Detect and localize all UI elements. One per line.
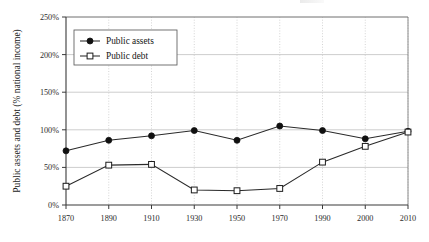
data-point-marker [362, 143, 368, 149]
data-point-marker [320, 128, 326, 134]
data-point-marker [320, 159, 326, 165]
y-tick-label: 50% [44, 163, 59, 172]
data-point-marker [106, 162, 112, 168]
data-point-marker [63, 183, 69, 189]
legend-label: Public assets [106, 36, 154, 46]
x-tick-label: 1930 [186, 214, 202, 223]
data-point-marker [106, 137, 112, 143]
y-tick-label: 200% [40, 51, 59, 60]
x-tick-label: 1950 [229, 214, 245, 223]
y-tick-label: 0% [48, 201, 59, 210]
data-point-marker [277, 186, 283, 192]
data-point-marker [191, 128, 197, 134]
data-point-marker [191, 187, 197, 193]
y-axis-title: Public assets and debt (% national incom… [12, 29, 23, 193]
x-tick-label: 1870 [58, 214, 74, 223]
data-point-marker [405, 129, 411, 135]
y-tick-label: 250% [40, 13, 59, 22]
data-point-marker [63, 148, 69, 154]
data-point-marker [234, 137, 240, 143]
data-point-marker [277, 123, 283, 129]
x-tick-label: 1910 [143, 214, 159, 223]
data-point-marker [149, 133, 155, 139]
x-tick-label: 2000 [357, 214, 373, 223]
x-tick-label: 2010 [400, 214, 416, 223]
data-point-marker [362, 136, 368, 142]
chart-container: 0%50%100%150%200%250%1870189019101930195… [0, 0, 429, 242]
line-chart: 0%50%100%150%200%250%1870189019101930195… [0, 0, 429, 242]
data-point-marker [234, 188, 240, 194]
y-tick-label: 150% [40, 88, 59, 97]
data-point-marker [149, 161, 155, 167]
x-tick-label: 1970 [272, 214, 288, 223]
legend-marker-open-square-icon [87, 53, 93, 59]
legend-marker-filled-circle-icon [87, 38, 93, 44]
x-tick-label: 1890 [101, 214, 117, 223]
legend-label: Public debt [106, 51, 149, 61]
y-tick-label: 100% [40, 126, 59, 135]
x-tick-label: 1990 [314, 214, 330, 223]
